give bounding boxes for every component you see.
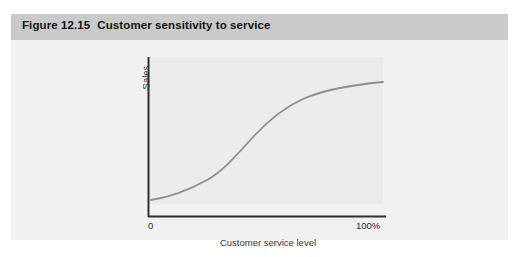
figure-body: Sales 0 100% Customer service level (11, 40, 508, 240)
chart: Sales 0 100% Customer service level (11, 40, 508, 240)
x-axis-tick-0: 0 (148, 220, 153, 231)
screenshot-root: Figure 12.15Customer sensitivity to serv… (0, 0, 520, 257)
sales-curve (151, 82, 383, 200)
figure-title-bar: Figure 12.15Customer sensitivity to serv… (11, 14, 508, 40)
chart-svg (11, 40, 508, 240)
figure-number: Figure 12.15 (22, 19, 90, 31)
figure-title: Figure 12.15Customer sensitivity to serv… (22, 19, 270, 31)
figure-container: Figure 12.15Customer sensitivity to serv… (11, 14, 508, 240)
x-axis-tick-100: 100% (356, 220, 380, 231)
figure-caption: Customer sensitivity to service (97, 19, 270, 31)
x-axis-label: Customer service level (148, 237, 388, 248)
